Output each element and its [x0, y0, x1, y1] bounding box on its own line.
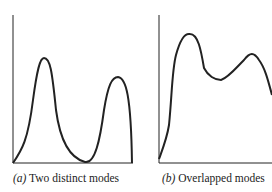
density-curve-a: [13, 58, 132, 163]
caption-a-text: Two distinct modes: [26, 172, 119, 184]
caption-b: (b) Overlapped modes: [162, 172, 265, 184]
density-curve-b: [159, 34, 272, 159]
caption-b-text: Overlapped modes: [175, 172, 264, 184]
panel-a: [13, 15, 133, 163]
caption-a: (a) Two distinct modes: [13, 172, 119, 184]
caption-b-letter: (b): [162, 172, 175, 184]
figure: [0, 0, 272, 192]
caption-a-letter: (a): [13, 172, 26, 184]
panel-b: [159, 15, 272, 163]
